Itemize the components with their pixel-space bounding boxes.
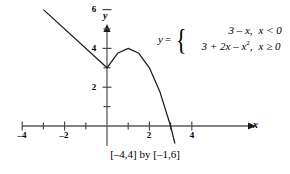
equation-cases: 3 – x, x < 0 3 + 2x – x2, x ≥ 0 bbox=[191, 24, 290, 54]
piecewise-function-figure: y x –4 –2 2 4 2 4 6 y = { 3 – x, x < 0 3… bbox=[0, 0, 290, 174]
equation-brace: { bbox=[176, 27, 187, 52]
y-tick-label-2: 2 bbox=[85, 82, 103, 92]
equation-case-1-expression: 3 – x, bbox=[191, 24, 259, 36]
piecewise-equation: y = { 3 – x, x < 0 3 + 2x – x2, x ≥ 0 bbox=[158, 24, 290, 54]
curve-parabolic-branch bbox=[107, 48, 175, 143]
x-tick-label--4: –4 bbox=[13, 130, 31, 140]
equation-equals-sign: = bbox=[165, 33, 171, 45]
curve-linear-branch bbox=[43, 10, 107, 68]
equation-case-2: 3 + 2x – x2, x ≥ 0 bbox=[191, 39, 290, 54]
equation-case-2-condition: x ≥ 0 bbox=[259, 40, 290, 52]
equation-case-2-expression-base: 3 + 2x – x bbox=[202, 40, 247, 52]
y-axis-arrowhead bbox=[103, 24, 110, 32]
equation-lhs: y bbox=[158, 33, 163, 45]
x-tick-label-4: 4 bbox=[183, 130, 201, 140]
y-axis-label: y bbox=[103, 10, 107, 21]
equation-case-2-comma: , bbox=[250, 40, 253, 52]
x-axis-label: x bbox=[253, 119, 258, 130]
y-tick-label-6: 6 bbox=[85, 4, 103, 14]
equation-case-1-condition: x < 0 bbox=[259, 24, 290, 36]
x-tick-label-2: 2 bbox=[140, 130, 158, 140]
viewing-window-caption: [–4,4] by [–1,6] bbox=[0, 148, 290, 160]
x-tick-label--2: –2 bbox=[55, 130, 73, 140]
equation-case-2-expression: 3 + 2x – x2, bbox=[191, 39, 259, 52]
y-tick-label-4: 4 bbox=[85, 43, 103, 53]
equation-case-1: 3 – x, x < 0 bbox=[191, 24, 290, 39]
